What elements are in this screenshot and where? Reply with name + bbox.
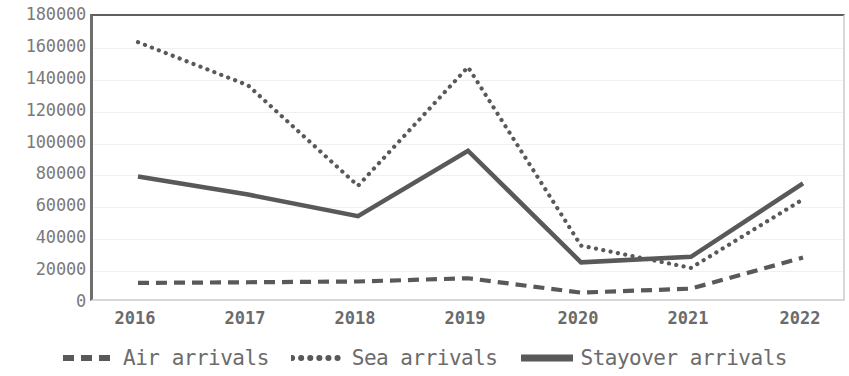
- legend-item[interactable]: Air arrivals: [62, 346, 269, 370]
- x-axis-tick-label: 2018: [335, 308, 376, 328]
- legend-label: Air arrivals: [123, 346, 269, 370]
- y-axis-tick-label: 180000: [2, 4, 86, 24]
- y-axis-tick-label: 140000: [2, 68, 86, 88]
- x-axis-tick-label: 2022: [780, 308, 821, 328]
- x-axis-tick-label: 2019: [445, 308, 486, 328]
- solid-line-swatch: [520, 349, 574, 367]
- y-axis-tick-label: 40000: [2, 227, 86, 247]
- series-line-air-arrivals: [138, 258, 803, 293]
- series-line-stayover-arrivals: [138, 151, 803, 263]
- x-axis-tick-label: 2016: [115, 308, 156, 328]
- series-lines: [93, 16, 848, 303]
- y-axis-tick-label: 160000: [2, 36, 86, 56]
- x-axis: 2016201720182019202020212022: [0, 308, 849, 334]
- chart-legend: Air arrivalsSea arrivalsStayover arrival…: [0, 340, 849, 376]
- x-axis-tick-label: 2021: [668, 308, 709, 328]
- y-axis-tick-label: 60000: [2, 195, 86, 215]
- legend-item[interactable]: Sea arrivals: [291, 346, 498, 370]
- y-axis-tick-label: 20000: [2, 259, 86, 279]
- dashed-line-swatch: [62, 349, 116, 367]
- y-axis-tick-label: 120000: [2, 100, 86, 120]
- x-axis-tick-label: 2020: [558, 308, 599, 328]
- y-axis-tick-label: 80000: [2, 163, 86, 183]
- plot-area: [90, 14, 845, 301]
- x-axis-tick-label: 2017: [225, 308, 266, 328]
- y-axis-tick-label: 100000: [2, 132, 86, 152]
- legend-item[interactable]: Stayover arrivals: [520, 346, 787, 370]
- dotted-line-swatch: [291, 349, 345, 367]
- legend-label: Sea arrivals: [352, 346, 498, 370]
- legend-label: Stayover arrivals: [581, 346, 787, 370]
- line-chart: 1800001600001400001200001000008000060000…: [0, 0, 849, 376]
